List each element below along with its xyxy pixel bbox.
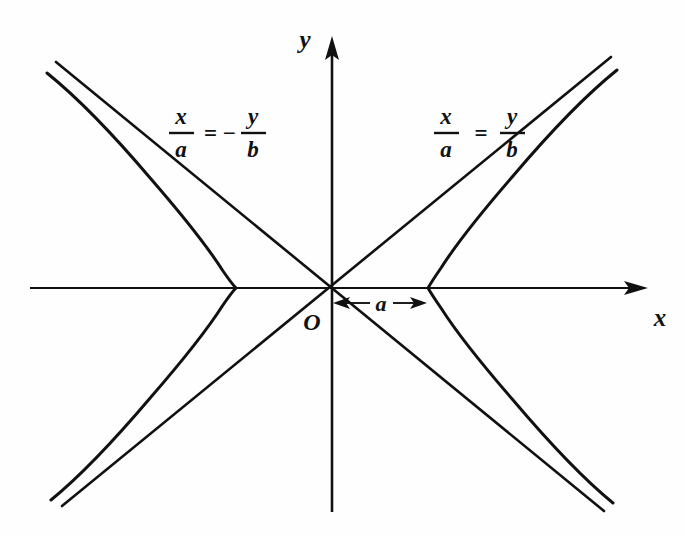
axes-group [30, 36, 648, 512]
equation-right-denominator-2: b [506, 137, 518, 162]
equation-left-operator: = − [204, 121, 236, 146]
equation-right-operator: = [474, 121, 487, 146]
dimension-label-a: a [376, 291, 387, 316]
asymptotes-group [56, 57, 611, 511]
equation-left-denominator-2: b [247, 137, 259, 162]
equation-left-numerator-2: y [245, 104, 259, 129]
asymptote-positive-slope-line [62, 57, 611, 506]
equation-left-asymptote: x a = − y b [169, 104, 266, 162]
equation-right-denominator-1: a [440, 137, 452, 162]
equation-right-numerator-1: x [439, 104, 452, 129]
x-axis-label: x [653, 304, 667, 331]
equation-left-numerator-1: x [174, 104, 187, 129]
y-axis-label: y [296, 26, 311, 53]
hyperbola-figure: y x O a x a = − y b x a = y [0, 0, 684, 537]
hyperbola-right-branch [428, 70, 617, 503]
figure-canvas: y x O a x a = − y b x a = y [0, 0, 684, 537]
equation-right-numerator-2: y [504, 104, 518, 129]
origin-label: O [303, 309, 320, 335]
equation-left-denominator-1: a [175, 137, 187, 162]
equation-right-asymptote: x a = y b [434, 104, 525, 162]
